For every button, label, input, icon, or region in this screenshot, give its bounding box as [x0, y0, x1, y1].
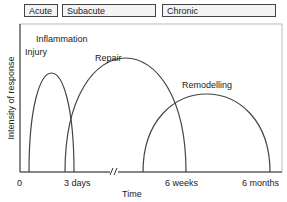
x-tick-3days: 3 days: [64, 178, 91, 188]
label-remodelling: Remodelling: [182, 80, 232, 90]
label-repair: Repair: [95, 53, 122, 63]
y-axis-label: Intensity of response: [6, 43, 16, 153]
x-tick-0: 0: [17, 178, 22, 188]
x-axis-label: Time: [122, 189, 142, 199]
remodelling-curve: [143, 94, 270, 172]
x-tick-6months: 6 months: [242, 178, 279, 188]
injury-curve: [29, 73, 74, 172]
x-tick-6weeks: 6 weeks: [165, 178, 198, 188]
response-diagram: [0, 0, 287, 202]
label-inflammation: Inflammation: [36, 34, 88, 44]
label-injury: Injury: [25, 47, 47, 57]
repair-curve: [65, 58, 186, 172]
